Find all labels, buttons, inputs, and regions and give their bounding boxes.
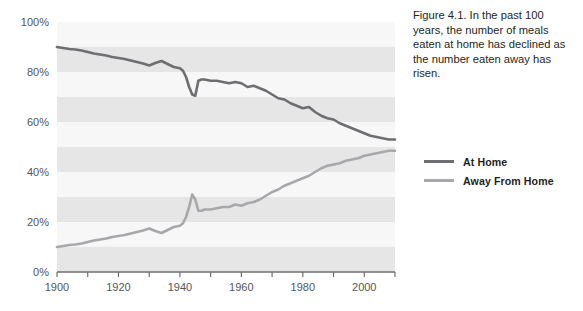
chart-band: [57, 222, 395, 247]
line-chart: 0%20%40%60%80%100%1900192019401960198020…: [0, 0, 410, 300]
y-axis-tick-label: 0%: [33, 266, 49, 278]
chart-band: [57, 172, 395, 197]
chart-band: [57, 22, 395, 47]
chart-area: 0%20%40%60%80%100%1900192019401960198020…: [0, 0, 410, 300]
legend-swatch-away-from-home: [424, 179, 454, 182]
legend-label-away-from-home: Away From Home: [463, 175, 554, 187]
x-axis-tick-label: 1900: [45, 281, 69, 293]
legend-swatch-at-home: [424, 160, 454, 163]
figure-container: 0%20%40%60%80%100%1900192019401960198020…: [0, 0, 583, 311]
x-axis-tick-label: 1920: [106, 281, 130, 293]
x-axis-tick-label: 1960: [229, 281, 253, 293]
y-axis-tick-label: 80%: [27, 66, 49, 78]
chart-band: [57, 47, 395, 72]
x-axis-tick-label: 1980: [291, 281, 315, 293]
chart-band: [57, 197, 395, 222]
x-axis-tick-label: 1940: [168, 281, 192, 293]
chart-legend: At Home Away From Home: [424, 152, 583, 190]
y-axis-tick-label: 20%: [27, 216, 49, 228]
chart-band: [57, 147, 395, 172]
figure-caption: Figure 4.1. In the past 100 years, the n…: [413, 8, 577, 81]
y-axis-tick-label: 40%: [27, 166, 49, 178]
legend-label-at-home: At Home: [463, 156, 507, 168]
chart-band: [57, 247, 395, 272]
x-axis-tick-label: 2000: [352, 281, 376, 293]
y-axis-tick-label: 100%: [21, 16, 49, 28]
legend-item-away-from-home: Away From Home: [424, 171, 583, 190]
legend-item-at-home: At Home: [424, 152, 583, 171]
chart-band: [57, 72, 395, 97]
y-axis-tick-label: 60%: [27, 116, 49, 128]
chart-band: [57, 97, 395, 122]
